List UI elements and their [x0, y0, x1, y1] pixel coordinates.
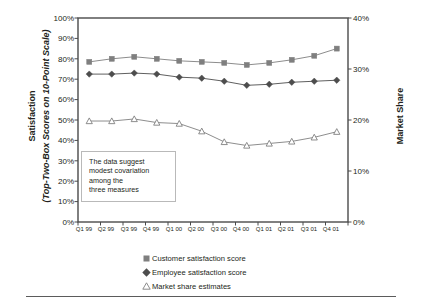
chart-legend: Customer satisfaction score Employee sat…: [0, 251, 422, 293]
chart-figure: Satisfaction (Top-Two-Box Scores on 10-P…: [0, 0, 422, 306]
annotation-callout: The data suggest modest covariation amon…: [81, 151, 176, 202]
data-series: [86, 46, 340, 148]
filled-diamond-icon: [141, 268, 152, 277]
annotation-line-3: among the: [89, 176, 169, 185]
legend-label: Employee satisfaction score: [152, 268, 247, 277]
legend-item-market-share: Market share estimates: [0, 279, 422, 293]
footer-rule: [26, 296, 396, 297]
legend-item-customer-satisfaction: Customer satisfaction score: [0, 251, 422, 265]
legend-item-employee-satisfaction: Employee satisfaction score: [0, 265, 422, 279]
annotation-line-1: The data suggest: [89, 157, 169, 166]
legend-label: Market share estimates: [152, 282, 231, 291]
open-triangle-icon: [141, 282, 152, 290]
legend-label: Customer satisfaction score: [152, 254, 246, 263]
annotation-line-2: modest covariation: [89, 166, 169, 175]
filled-square-icon: [141, 255, 152, 262]
annotation-line-4: three measures: [89, 185, 169, 194]
